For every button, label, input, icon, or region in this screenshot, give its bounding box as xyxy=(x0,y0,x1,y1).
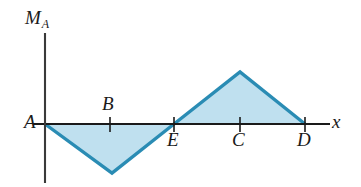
point-label-e: E xyxy=(167,130,179,149)
y-axis-label-subscript: A xyxy=(42,17,49,31)
point-label-b: B xyxy=(102,94,114,113)
y-axis-label: MA xyxy=(25,8,48,27)
y-axis-label-main: M xyxy=(25,7,41,28)
x-axis-label: x xyxy=(332,112,340,131)
bending-moment-diagram xyxy=(0,0,361,187)
point-label-d: D xyxy=(297,130,311,149)
point-label-a: A xyxy=(24,112,36,131)
figure-canvas: MA A B E C D x xyxy=(0,0,361,187)
point-label-c: C xyxy=(232,130,245,149)
positive-moment-area xyxy=(174,72,305,124)
